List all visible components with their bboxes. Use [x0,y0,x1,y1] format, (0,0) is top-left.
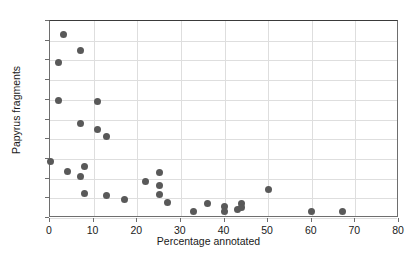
x-tick-mark-40 [224,218,225,222]
data-point [81,163,88,170]
x-tick-mark-30 [180,218,181,222]
data-point [64,168,71,175]
x-tick-mark-0 [49,218,50,222]
data-point [265,186,272,193]
data-point [308,208,315,215]
data-point [204,200,211,207]
y-tick-mark-100 [45,119,49,120]
y-tick-mark-60 [45,158,49,159]
data-point [77,120,84,127]
data-point [190,208,197,215]
gridline-x-10 [94,21,95,216]
data-point [60,31,67,38]
gridline-x-30 [181,21,182,216]
y-tick-mark-140 [45,79,49,80]
gridline-y-60 [50,159,397,160]
y-tick-mark-80 [45,138,49,139]
data-point [238,204,245,211]
data-point [94,98,101,105]
plot-area [49,20,398,217]
x-tick-label-20: 20 [116,225,156,236]
gridline-y-140 [50,80,397,81]
y-tick-mark-120 [45,99,49,100]
gridline-x-70 [355,21,356,216]
data-point [94,126,101,133]
x-axis-title: Percentage annotated [0,235,417,247]
x-tick-label-60: 60 [291,225,331,236]
y-axis-title: Papyrus fragments [10,40,22,180]
x-tick-label-50: 50 [247,225,287,236]
x-tick-label-30: 30 [160,225,200,236]
y-tick-mark-40 [45,178,49,179]
scatter-chart: 020406080100120140160180200 010203040506… [0,0,417,260]
y-tick-mark-20 [45,197,49,198]
data-point [156,191,163,198]
gridline-y-120 [50,100,397,101]
gridline-y-180 [50,41,397,42]
data-point [55,59,62,66]
x-tick-label-10: 10 [73,225,113,236]
data-point [156,169,163,176]
y-tick-mark-180 [45,40,49,41]
y-tick-mark-160 [45,59,49,60]
data-point [339,208,346,215]
gridline-y-80 [50,139,397,140]
x-tick-label-80: 80 [378,225,417,236]
x-tick-label-70: 70 [334,225,374,236]
x-tick-mark-50 [267,218,268,222]
data-point [55,97,62,104]
data-point [142,178,149,185]
gridline-x-20 [137,21,138,216]
x-tick-mark-10 [93,218,94,222]
gridline-y-160 [50,60,397,61]
gridline-x-40 [225,21,226,216]
y-tick-mark-200 [45,20,49,21]
x-tick-mark-20 [136,218,137,222]
x-tick-label-0: 0 [29,225,69,236]
data-point [103,192,110,199]
data-point [164,199,171,206]
data-point [121,196,128,203]
x-tick-mark-60 [311,218,312,222]
gridline-x-60 [312,21,313,216]
data-point [81,190,88,197]
data-point [77,47,84,54]
gridline-y-100 [50,120,397,121]
x-tick-label-40: 40 [204,225,244,236]
data-point [221,208,228,215]
x-tick-mark-80 [398,218,399,222]
data-point [156,182,163,189]
data-point [103,133,110,140]
x-tick-mark-70 [354,218,355,222]
gridline-y-20 [50,198,397,199]
gridline-y-40 [50,179,397,180]
